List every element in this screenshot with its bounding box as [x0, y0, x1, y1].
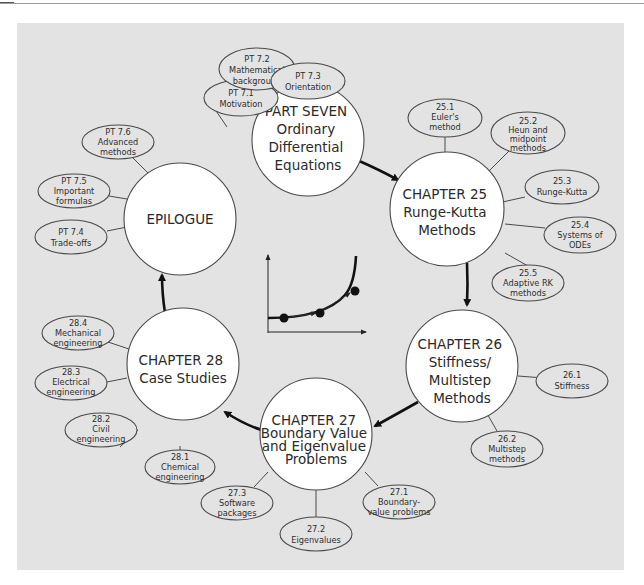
arrow-ch26-to-ch27	[375, 402, 418, 426]
subnode-pt7-3: PT 7.3Orientation	[271, 63, 345, 99]
subnode-26-2: 26.2Multistepmethods	[471, 431, 543, 467]
node-epilogue: EPILOGUE	[124, 163, 236, 275]
subnode-27-3: 27.3Softwarepackages	[201, 486, 273, 520]
subnode-28-2: 28.2Civilengineering	[65, 413, 137, 447]
subnode-28-1: 28.1Chemicalengineering	[145, 450, 215, 484]
subnode-27-2: 27.2Eigenvalues	[280, 517, 352, 551]
subnode-pt7-6: PT 7.6Advancedmethods	[82, 125, 154, 159]
subnode-25-3: 25.3Runge-Kutta	[525, 170, 599, 204]
subnode-26-1: 26.1Stiffness	[536, 364, 608, 398]
subnode-25-5: 25.5Adaptive RKmethods	[492, 265, 564, 301]
euler-method-graph-icon	[268, 255, 366, 333]
subnode-25-4: 25.4Systems ofODEs	[544, 217, 616, 253]
node-chapter-28: CHAPTER 28 Case Studies	[127, 308, 239, 420]
subnode-pt7-4: PT 7.4Trade-offs	[35, 220, 107, 254]
arrow-ch25-to-ch26	[467, 263, 468, 305]
node-title: EPILOGUE	[146, 211, 213, 227]
node-chapter-25: CHAPTER 25 Runge-Kutta Methods	[390, 152, 504, 266]
chapter-flow-diagram: PART SEVEN Ordinary Differential Equatio…	[0, 0, 644, 585]
node-chapter-27: CHAPTER 27 Boundary Value and Eigenvalue…	[260, 378, 372, 490]
subnode-25-1: 25.1Euler'smethod	[408, 99, 482, 137]
subnode-25-2: 25.2Heun andmidpointmethods	[491, 112, 565, 154]
subnode-28-3: 28.3Electricalengineering	[35, 366, 107, 400]
subnode-28-4: 28.4Mechanicalengineering	[42, 316, 114, 350]
subnode-pt7-5: PT 7.5Importantformulas	[38, 174, 110, 208]
arrow-part7-to-ch25	[357, 160, 398, 180]
subnode-27-1: 27.1Boundary-value problems	[363, 485, 435, 519]
arrow-ch27-to-ch28	[225, 412, 262, 430]
arrow-ch28-to-epilogue	[162, 275, 165, 313]
node-chapter-26: CHAPTER 26 Stiffness/ Multistep Methods	[406, 310, 518, 422]
